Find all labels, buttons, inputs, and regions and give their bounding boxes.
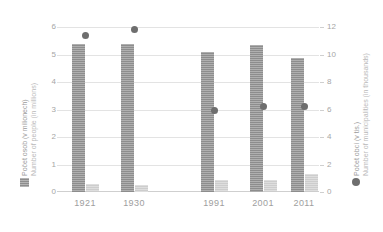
left-axis-tick-4: 4 — [36, 78, 56, 86]
bar-people2-1921 — [86, 184, 99, 192]
bar-group-1991 — [201, 27, 228, 192]
dot-municipalities-2001 — [260, 103, 267, 110]
right-axis-tick-10: 10 — [327, 51, 349, 59]
left-axis-title: Počet osob (v milionech) Number of peopl… — [20, 83, 38, 176]
bar-people-1930 — [121, 44, 134, 193]
dot-municipalities-2011 — [301, 103, 308, 110]
bar-people-1991 — [201, 52, 214, 192]
bar-group-2001 — [250, 27, 277, 192]
bar-people2-1930 — [135, 185, 148, 192]
bar-people2-1991 — [215, 180, 228, 192]
left-axis-title-en: Number of people (in millions) — [29, 83, 38, 176]
right-axis-title-cs: Počet obcí (v tis.) — [352, 53, 361, 176]
plot-area — [57, 27, 319, 192]
right-axis-tick-mark — [320, 192, 324, 193]
left-axis-tick-0: 0 — [36, 188, 56, 196]
right-axis-tick-4: 4 — [327, 133, 349, 141]
right-axis-tick-6: 6 — [327, 106, 349, 114]
bar-group-1921 — [72, 27, 99, 192]
right-axis-tick-mark — [320, 165, 324, 166]
left-axis-title-cs: Počet osob (v milionech) — [20, 83, 29, 176]
bar-people2-2001 — [264, 180, 277, 192]
right-axis-title: Počet obcí (v tis.) Number of municipali… — [352, 53, 370, 176]
dot-municipalities-1991 — [211, 107, 218, 114]
right-axis-tick-mark — [320, 137, 324, 138]
bar-group-2011 — [291, 27, 318, 192]
left-axis-tick-6: 6 — [36, 23, 56, 31]
legend-swatch-bar-series — [20, 178, 29, 187]
x-axis-label-2001: 2001 — [243, 198, 283, 208]
right-axis-tick-mark — [320, 110, 324, 111]
chart-container: 6 5 4 3 2 1 0 12 10 8 6 4 2 0 — [0, 0, 383, 232]
right-axis-tick-mark — [320, 55, 324, 56]
left-axis-tick-1: 1 — [36, 161, 56, 169]
bar-people-1921 — [72, 44, 85, 193]
left-axis-tick-2: 2 — [36, 133, 56, 141]
bar-people-2001 — [250, 45, 263, 192]
left-axis-tick-3: 3 — [36, 106, 56, 114]
right-axis-tick-2: 2 — [327, 161, 349, 169]
dot-municipalities-1921 — [82, 32, 89, 39]
right-axis-tick-mark — [320, 82, 324, 83]
dot-municipalities-1930 — [131, 26, 138, 33]
x-axis-label-1921: 1921 — [65, 198, 105, 208]
bar-group-1930 — [121, 27, 148, 192]
right-axis-tick-0: 0 — [327, 188, 349, 196]
x-axis-label-1930: 1930 — [114, 198, 154, 208]
right-axis-tick-mark — [320, 27, 324, 28]
left-axis-tick-5: 5 — [36, 51, 56, 59]
legend-dot-municipalities-series — [352, 178, 360, 186]
bar-people2-2011 — [305, 174, 318, 192]
right-axis-tick-12: 12 — [327, 23, 349, 31]
right-axis-title-en: Number of municipalities (in thousands) — [361, 53, 370, 176]
x-axis-label-2011: 2011 — [284, 198, 324, 208]
x-axis-label-1991: 1991 — [194, 198, 234, 208]
right-axis-tick-8: 8 — [327, 78, 349, 86]
bar-people-2011 — [291, 58, 304, 193]
